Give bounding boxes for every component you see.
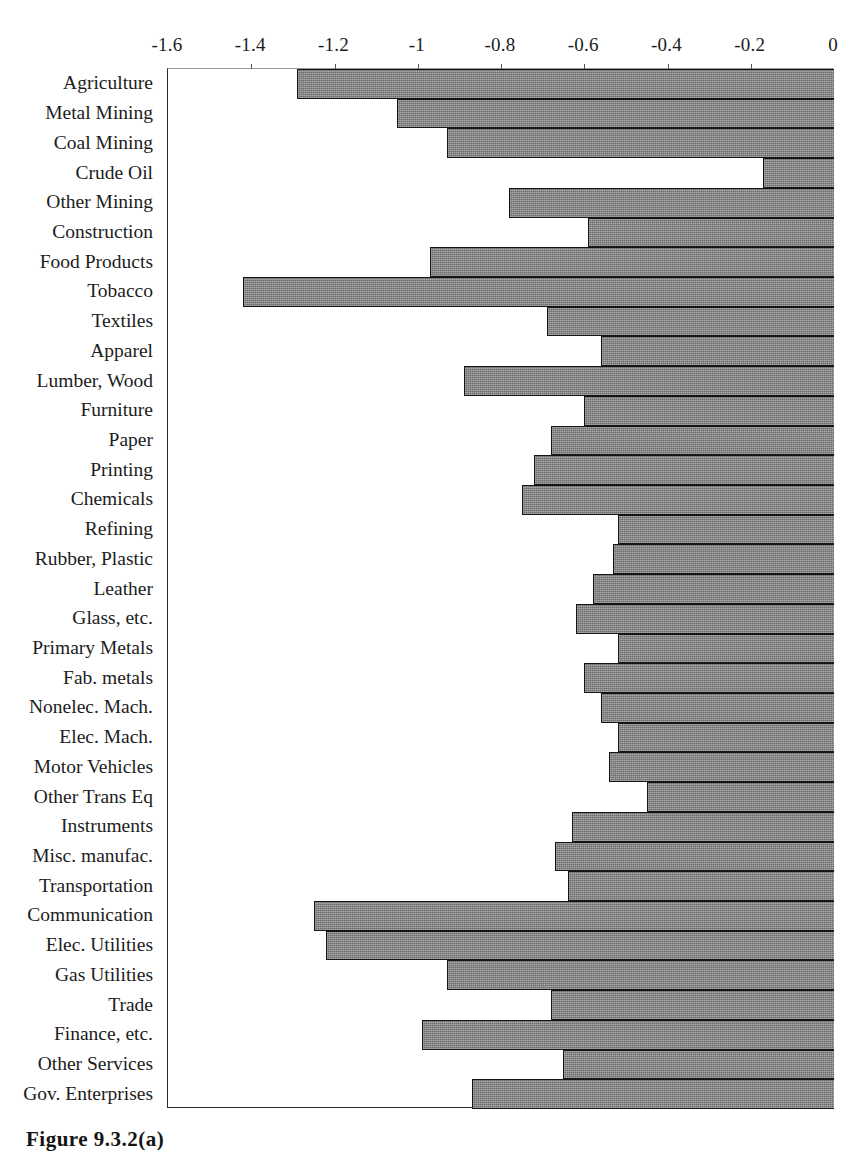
category-label: Finance, etc. — [0, 1024, 160, 1044]
category-label: Communication — [0, 905, 160, 925]
bar — [563, 1050, 834, 1080]
bar — [547, 307, 834, 337]
bar — [613, 544, 834, 574]
category-label: Textiles — [0, 311, 160, 331]
bar — [472, 1079, 834, 1109]
category-label: Coal Mining — [0, 133, 160, 153]
bar — [422, 1020, 834, 1050]
bar — [555, 842, 834, 872]
x-tick-label: -1.4 — [235, 33, 266, 57]
bar — [618, 515, 834, 545]
figure-caption: Figure 9.3.2(a) — [26, 1128, 164, 1151]
bar — [314, 901, 834, 931]
category-label: Crude Oil — [0, 163, 160, 183]
category-label: Elec. Utilities — [0, 935, 160, 955]
bar — [647, 782, 834, 812]
bar — [763, 158, 834, 188]
bar — [326, 931, 834, 961]
bar — [297, 69, 834, 99]
x-tick-label: -0.4 — [651, 33, 682, 57]
category-label: Construction — [0, 222, 160, 242]
category-label: Food Products — [0, 252, 160, 272]
plot-area — [167, 68, 833, 1108]
bar — [618, 723, 834, 753]
category-label: Gov. Enterprises — [0, 1084, 160, 1104]
x-tick-label: -0.2 — [734, 33, 765, 57]
category-label: Paper — [0, 430, 160, 450]
category-label: Apparel — [0, 341, 160, 361]
category-label: Fab. metals — [0, 668, 160, 688]
category-label: Lumber, Wood — [0, 371, 160, 391]
category-label: Furniture — [0, 400, 160, 420]
category-label: Gas Utilities — [0, 965, 160, 985]
bar — [609, 752, 834, 782]
bar — [447, 960, 834, 990]
x-tick-mark — [501, 64, 502, 69]
category-label: Printing — [0, 460, 160, 480]
bar — [584, 396, 834, 426]
category-label: Tobacco — [0, 281, 160, 301]
bar — [534, 455, 834, 485]
x-tick-mark — [584, 64, 585, 69]
category-label: Metal Mining — [0, 103, 160, 123]
bar — [430, 247, 834, 277]
bar — [464, 366, 834, 396]
bars-layer — [168, 69, 832, 1107]
bar — [551, 426, 834, 456]
category-label: Other Trans Eq — [0, 787, 160, 807]
category-label: Nonelec. Mach. — [0, 697, 160, 717]
bar — [568, 871, 834, 901]
bar — [601, 693, 834, 723]
x-tick-label: -0.8 — [485, 33, 516, 57]
category-label: Leather — [0, 579, 160, 599]
x-axis-tick-labels: -1.6-1.4-1.2-1-0.8-0.6-0.4-0.20 — [0, 33, 867, 57]
category-label: Chemicals — [0, 489, 160, 509]
category-label: Elec. Mach. — [0, 727, 160, 747]
x-tick-mark — [668, 64, 669, 69]
bar — [551, 990, 834, 1020]
bar — [593, 574, 834, 604]
category-label: Transportation — [0, 876, 160, 896]
bar — [584, 663, 834, 693]
x-tick-mark — [335, 64, 336, 69]
category-label: Misc. manufac. — [0, 846, 160, 866]
bar — [588, 218, 834, 248]
bar — [618, 634, 834, 664]
bar — [509, 188, 834, 218]
bar — [447, 128, 834, 158]
x-tick-label: -1.6 — [152, 33, 183, 57]
x-tick-label: -1 — [409, 33, 425, 57]
bar — [576, 604, 834, 634]
x-tick-mark — [251, 64, 252, 69]
category-label: Motor Vehicles — [0, 757, 160, 777]
figure-root: -1.6-1.4-1.2-1-0.8-0.6-0.4-0.20 Agricult… — [0, 0, 867, 1151]
x-tick-label: -1.2 — [318, 33, 349, 57]
category-label: Trade — [0, 995, 160, 1015]
bar — [522, 485, 834, 515]
category-label: Primary Metals — [0, 638, 160, 658]
bar — [572, 812, 834, 842]
x-tick-label: -0.6 — [568, 33, 599, 57]
category-label: Other Mining — [0, 192, 160, 212]
category-label: Glass, etc. — [0, 608, 160, 628]
category-label: Rubber, Plastic — [0, 549, 160, 569]
category-label: Agriculture — [0, 73, 160, 93]
category-label: Other Services — [0, 1054, 160, 1074]
bar — [243, 277, 834, 307]
x-tick-mark — [751, 64, 752, 69]
bar — [601, 336, 834, 366]
category-label: Instruments — [0, 816, 160, 836]
category-label: Refining — [0, 519, 160, 539]
bar — [397, 99, 834, 129]
x-tick-mark — [418, 64, 419, 69]
x-tick-label: 0 — [828, 33, 838, 57]
